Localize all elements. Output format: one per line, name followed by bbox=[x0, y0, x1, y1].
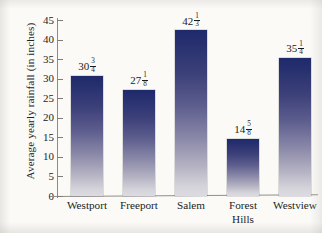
y-tick-mark-20 bbox=[57, 118, 63, 119]
bar-salem bbox=[175, 30, 207, 196]
category-label-line1: Westport bbox=[67, 199, 107, 211]
fraction-numerator: 1 bbox=[194, 13, 200, 20]
y-tick-mark-15 bbox=[57, 137, 63, 138]
fraction-denominator: 8 bbox=[142, 80, 148, 88]
bar-value-label-forest-hills: 1458 bbox=[217, 122, 269, 138]
whole-part: 35 bbox=[286, 43, 297, 54]
y-tick-mark-5 bbox=[57, 176, 63, 177]
y-axis-tick-labels: 454035302520151050 bbox=[28, 0, 54, 233]
fraction-denominator: 4 bbox=[298, 48, 304, 56]
y-tick-label-25: 25 bbox=[32, 93, 54, 104]
y-tick-mark-35 bbox=[57, 59, 63, 60]
mixed-number: 2718 bbox=[130, 73, 148, 89]
fraction-part: 14 bbox=[298, 41, 304, 57]
bar-westview bbox=[279, 58, 311, 196]
mixed-number: 3514 bbox=[286, 41, 304, 57]
mixed-number: 1458 bbox=[234, 122, 252, 138]
y-tick-label-20: 20 bbox=[32, 112, 54, 123]
y-tick-mark-45 bbox=[57, 20, 63, 21]
whole-part: 27 bbox=[130, 75, 141, 86]
bar-westport bbox=[71, 76, 103, 196]
y-tick-mark-40 bbox=[57, 40, 63, 41]
category-label-line2: Hills bbox=[212, 213, 274, 227]
y-tick-label-35: 35 bbox=[32, 54, 54, 65]
fraction-numerator: 5 bbox=[246, 121, 252, 128]
whole-part: 42 bbox=[182, 16, 193, 27]
bar-forest-hills bbox=[227, 139, 259, 196]
category-label-line1: Westview bbox=[273, 199, 317, 211]
bar-value-label-westview: 3514 bbox=[269, 41, 321, 57]
y-tick-label-45: 45 bbox=[32, 15, 54, 26]
category-label-westview: Westview bbox=[264, 199, 322, 213]
fraction-part: 13 bbox=[194, 13, 200, 29]
fraction-denominator: 4 bbox=[90, 66, 96, 74]
category-label-line1: Freeport bbox=[120, 199, 158, 211]
y-tick-label-40: 40 bbox=[32, 34, 54, 45]
bar-value-label-westport: 3034 bbox=[61, 59, 113, 75]
x-axis-category-labels: WestportFreeportSalemForestHillsWestview bbox=[57, 199, 318, 233]
bar-value-label-salem: 4213 bbox=[165, 13, 217, 29]
y-tick-mark-10 bbox=[57, 157, 63, 158]
fraction-denominator: 8 bbox=[246, 129, 252, 137]
category-label-line1: Forest bbox=[229, 199, 257, 211]
fraction-part: 18 bbox=[142, 72, 148, 88]
category-label-line1: Salem bbox=[177, 199, 205, 211]
y-tick-mark-25 bbox=[57, 98, 63, 99]
y-tick-mark-0 bbox=[57, 196, 63, 197]
fraction-denominator: 3 bbox=[194, 20, 200, 28]
fraction-numerator: 1 bbox=[298, 41, 304, 48]
y-tick-label-10: 10 bbox=[32, 151, 54, 162]
whole-part: 14 bbox=[234, 124, 245, 135]
bars-layer: 30342718421314583514 bbox=[57, 20, 318, 196]
whole-part: 30 bbox=[78, 61, 89, 72]
mixed-number: 4213 bbox=[182, 13, 200, 29]
y-tick-mark-30 bbox=[57, 79, 63, 80]
fraction-numerator: 1 bbox=[142, 72, 148, 79]
rainfall-bar-chart: Average yearly rainfall (in inches) 4540… bbox=[0, 0, 322, 233]
mixed-number: 3034 bbox=[78, 59, 96, 75]
bar-freeport bbox=[123, 90, 155, 196]
bar-value-label-freeport: 2718 bbox=[113, 73, 165, 89]
fraction-numerator: 3 bbox=[90, 58, 96, 65]
y-tick-label-30: 30 bbox=[32, 73, 54, 84]
y-tick-label-15: 15 bbox=[32, 132, 54, 143]
fraction-part: 58 bbox=[246, 121, 252, 137]
fraction-part: 34 bbox=[90, 58, 96, 74]
y-tick-label-5: 5 bbox=[32, 171, 54, 182]
